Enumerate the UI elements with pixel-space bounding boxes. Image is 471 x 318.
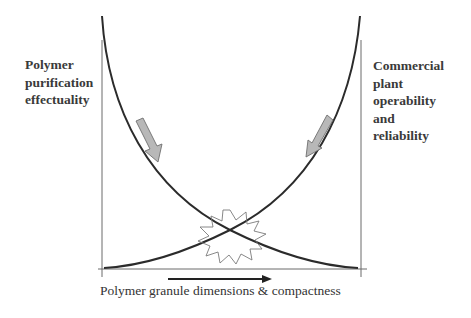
- diagram-canvas: [0, 0, 471, 318]
- x-axis-label: Polymer granule dimensions & compactness: [100, 283, 341, 299]
- right-arrow-icon: [168, 275, 272, 283]
- down-arrow-left-icon: [136, 118, 162, 162]
- left-axis-label: Polymer purification effectuality: [25, 56, 93, 109]
- right-axis-label: Commercial plant operability and reliabi…: [373, 57, 444, 145]
- down-arrow-right-icon: [306, 115, 333, 157]
